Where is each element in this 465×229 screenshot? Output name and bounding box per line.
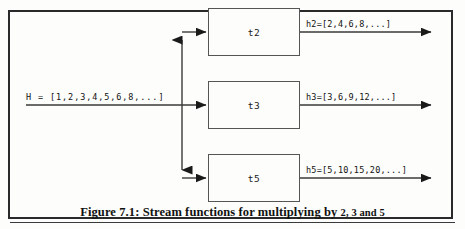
process-box-t2-label: t2 [209, 27, 299, 38]
output-stream-label-h5: h5=[5,10,15,20,...] [306, 165, 407, 175]
figure-caption: Figure 7.1: Stream functions for multipl… [10, 205, 455, 220]
caption-numbers: 2, 3 and 5 [341, 207, 385, 218]
process-box-t5: t5 [208, 154, 300, 202]
caption-rule [10, 222, 455, 223]
process-box-t5-label: t5 [209, 173, 299, 184]
process-box-t2: t2 [208, 8, 300, 56]
process-box-t3-label: t3 [209, 100, 299, 111]
output-stream-label-h3: h3=[3,6,9,12,...] [306, 92, 396, 102]
figure-container: t2 t3 t5 H = [1,2,3,4,5,6,8,...] h2=[2,4… [0, 0, 465, 229]
output-stream-label-h2: h2=[2,4,6,8,...] [306, 19, 391, 29]
caption-prefix: Figure 7.1: [80, 205, 139, 219]
process-box-t3: t3 [208, 81, 300, 129]
input-stream-label: H = [1,2,3,4,5,6,8,...] [26, 92, 164, 102]
caption-text: Stream functions for multiplying by [143, 205, 338, 219]
